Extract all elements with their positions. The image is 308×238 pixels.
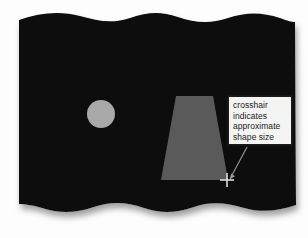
callout-line-1: crosshair [233, 100, 288, 111]
callout-line-2: indicates [233, 111, 288, 122]
callout-line-3: approximate [233, 121, 288, 132]
callout-line-4: shape size [233, 132, 288, 143]
figure-root: crosshair indicates approximate shape si… [0, 0, 308, 238]
annotation-callout: crosshair indicates approximate shape si… [228, 96, 292, 145]
circle-shape [87, 100, 115, 128]
